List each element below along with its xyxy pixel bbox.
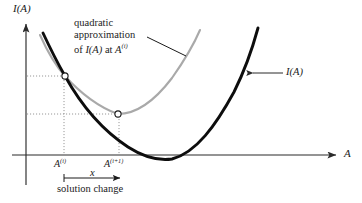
tick-label-a-i-superscript: (i)	[60, 157, 66, 164]
marker-a-i-plus-1	[115, 111, 121, 117]
y-axis-label: I(A)	[13, 2, 31, 15]
tick-label-a-i-plus-1: A(i+1)	[104, 157, 123, 170]
annotation-line-3-prefix: of	[74, 43, 85, 54]
annotation-line-2: approximation	[74, 29, 135, 41]
solution-change-caption: solution change	[57, 183, 123, 195]
annotation-line-3-point-superscript: (i)	[122, 42, 128, 49]
figure-canvas: I(A) A quadratic approximation of I(A) a…	[0, 0, 362, 203]
tick-label-a-i: A(i)	[54, 157, 66, 170]
annotation-leader-line	[147, 37, 186, 56]
annotation-line-3: of I(A) at A(i)	[74, 42, 135, 56]
solution-change-symbol-label: x	[90, 167, 95, 179]
markers-group	[62, 73, 121, 117]
figure-vector-layer	[0, 0, 362, 203]
tick-label-a-i-plus-1-superscript: (i+1)	[110, 157, 123, 164]
objective-curve-callout-label: I(A)	[286, 66, 303, 78]
x-axis-label: A	[344, 147, 351, 160]
annotation-line-1: quadratic	[74, 17, 135, 29]
quadratic-approximation-annotation: quadratic approximation of I(A) at A(i)	[74, 17, 135, 56]
marker-a-i	[62, 73, 68, 79]
annotation-line-3-function: I(A)	[85, 43, 102, 54]
annotation-line-3-mid: at	[102, 43, 115, 54]
